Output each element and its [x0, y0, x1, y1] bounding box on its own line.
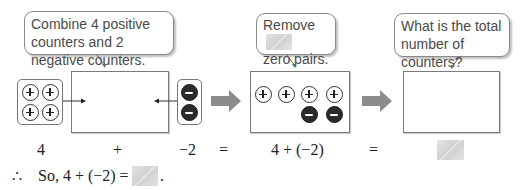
step3-pointer	[448, 55, 462, 71]
positive-counter	[301, 86, 318, 103]
positive-counter	[255, 86, 272, 103]
positive-counter	[278, 86, 295, 103]
answer-blank	[132, 166, 158, 186]
step1-pointer	[95, 54, 109, 70]
negative-counter	[181, 104, 198, 121]
positive-counter	[22, 84, 39, 101]
result-box	[403, 71, 500, 133]
step3-callout: What is the total number of counters?	[394, 13, 510, 57]
equals-sign-2: =	[369, 141, 378, 159]
equals-sign-1: =	[219, 141, 228, 159]
conclusion-text: So, 4 + (−2) =	[38, 167, 129, 185]
positive-counter	[42, 104, 59, 121]
answer-blank	[266, 34, 292, 50]
step2-pointer	[285, 54, 299, 70]
answer-blank	[437, 140, 464, 160]
step2-callout: Remove zero pairs.	[256, 13, 336, 55]
step1-text: Combine 4 positive counters and 2 negati…	[31, 16, 150, 68]
negative-counter	[326, 106, 343, 123]
negative-counter-tray	[177, 79, 202, 125]
left-arrow-into-box	[63, 97, 87, 105]
term-neg2: −2	[179, 141, 196, 159]
positive-counter-tray	[17, 79, 63, 125]
plus-operator: +	[113, 141, 122, 159]
big-arrow-right-icon	[211, 90, 241, 112]
positive-counter	[42, 84, 59, 101]
step2-text-line1: Remove	[263, 17, 315, 33]
big-arrow-right-icon	[362, 90, 392, 112]
zero-pairs-box	[250, 71, 350, 133]
positive-counter	[326, 86, 343, 103]
period: .	[160, 167, 164, 185]
step1-callout: Combine 4 positive counters and 2 negati…	[24, 11, 174, 55]
negative-counter	[301, 106, 318, 123]
positive-counter	[22, 104, 39, 121]
therefore-symbol: ∴	[12, 167, 22, 186]
right-arrow-into-box	[153, 97, 177, 105]
term-4: 4	[37, 141, 45, 159]
negative-counter	[181, 84, 198, 101]
expression: 4 + (−2)	[271, 141, 324, 159]
